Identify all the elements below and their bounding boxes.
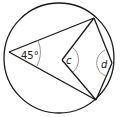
angle-arc-O	[72, 47, 79, 72]
circle-theorem-diagram: 45° c d	[0, 0, 120, 117]
angle-label-c: c	[66, 55, 72, 66]
angle-label-45: 45°	[21, 50, 39, 61]
radius-O-C	[62, 60, 96, 100]
angle-label-d: d	[101, 59, 108, 70]
